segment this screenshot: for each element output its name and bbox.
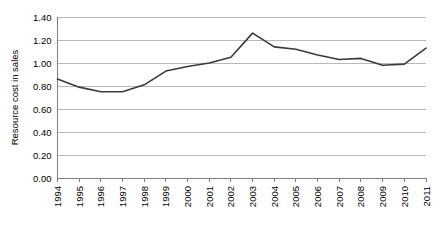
- x-axis-tick-label: 2007: [334, 186, 345, 207]
- x-axis-tick-label: 2004: [269, 186, 280, 207]
- x-axis-tick-label: 2009: [377, 186, 388, 207]
- y-axis-tick-label: 0.80: [33, 81, 52, 92]
- x-axis-tick-label: 1995: [74, 186, 85, 207]
- x-axis-tick-label: 2000: [182, 186, 193, 207]
- y-axis-tick-label: 1.00: [33, 58, 52, 69]
- x-axis-tick-label: 2006: [312, 186, 323, 207]
- y-axis-tick-label: 0.60: [33, 104, 52, 115]
- x-axis-tick-label: 2003: [247, 186, 258, 207]
- line-chart: 0.000.200.400.600.801.001.201.40 1994199…: [0, 0, 444, 226]
- x-axis-tick-label: 2001: [204, 186, 215, 207]
- x-axis-tick-label: 1994: [52, 186, 63, 207]
- y-axis-tick-label: 0.40: [33, 127, 52, 138]
- y-axis-tick-label: 1.40: [33, 12, 52, 23]
- y-axis-title: Resource cost in sales: [9, 49, 20, 145]
- x-axis-tick-label: 2008: [355, 186, 366, 207]
- y-axis-tick-label: 0.00: [33, 173, 52, 184]
- x-axis-tick-label: 2005: [290, 186, 301, 207]
- y-axis-tick-label: 0.20: [33, 150, 52, 161]
- x-axis-tick-label: 1996: [95, 186, 106, 207]
- x-axis-tick-label: 2002: [225, 186, 236, 207]
- x-axis-tick-label: 1997: [117, 186, 128, 207]
- x-axis-tick-label: 1999: [160, 186, 171, 207]
- x-axis-tick-label: 2010: [399, 186, 410, 207]
- chart-container: 0.000.200.400.600.801.001.201.40 1994199…: [0, 0, 444, 226]
- y-axis-tick-label: 1.20: [33, 35, 52, 46]
- y-axis-title-label: Resource cost in sales: [9, 49, 20, 145]
- x-axis-tick-label: 2011: [421, 186, 432, 206]
- x-axis-tick-label: 1998: [139, 186, 150, 207]
